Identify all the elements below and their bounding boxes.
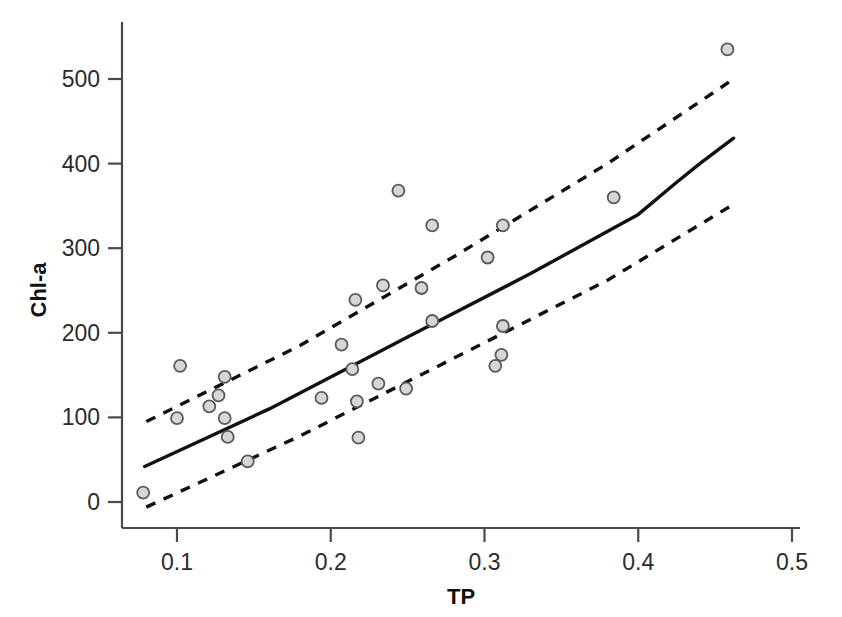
data-point	[203, 400, 215, 412]
data-point	[608, 191, 620, 203]
data-point	[482, 252, 494, 264]
x-axis-tick-labels: 0.10.20.30.40.5	[161, 549, 808, 575]
data-point	[336, 339, 348, 351]
confidence-bands-group	[146, 79, 733, 507]
y-tick-label: 0	[87, 489, 100, 515]
figure-container: 0100200300400500 0.10.20.30.40.5 TP Chl-…	[0, 0, 842, 617]
data-point	[497, 219, 509, 231]
data-point	[495, 349, 507, 361]
data-point	[316, 392, 328, 404]
x-tick-label: 0.5	[776, 549, 808, 575]
y-tick-label: 200	[62, 320, 100, 346]
data-point	[242, 455, 254, 467]
y-axis-ticks	[108, 79, 122, 502]
data-point	[400, 383, 412, 395]
data-point	[372, 378, 384, 390]
data-point	[213, 389, 225, 401]
data-point	[392, 185, 404, 197]
data-points-group	[137, 43, 733, 498]
data-point	[351, 395, 363, 407]
data-point	[721, 43, 733, 55]
x-axis-title: TP	[447, 584, 475, 609]
data-point	[352, 432, 364, 444]
regression-line	[145, 138, 734, 466]
x-tick-label: 0.4	[622, 549, 654, 575]
data-point	[346, 363, 358, 375]
data-point	[426, 315, 438, 327]
y-tick-label: 300	[62, 235, 100, 261]
y-tick-label: 500	[62, 66, 100, 92]
x-tick-label: 0.2	[315, 549, 347, 575]
x-tick-label: 0.3	[469, 549, 501, 575]
x-tick-label: 0.1	[161, 549, 193, 575]
data-point	[497, 320, 509, 332]
data-point	[377, 279, 389, 291]
confidence-band-line	[146, 79, 733, 422]
x-axis-ticks	[177, 528, 792, 542]
data-point	[219, 412, 231, 424]
confidence-band-line	[146, 204, 733, 507]
y-tick-label: 400	[62, 151, 100, 177]
data-point	[416, 282, 428, 294]
scatter-plot: 0100200300400500 0.10.20.30.40.5 TP Chl-…	[0, 0, 842, 617]
data-point	[137, 487, 149, 499]
data-point	[171, 412, 183, 424]
data-point	[222, 431, 234, 443]
y-tick-label: 100	[62, 404, 100, 430]
data-point	[349, 294, 361, 306]
data-point	[174, 360, 186, 372]
data-point	[489, 360, 501, 372]
data-point	[219, 371, 231, 383]
y-axis-title: Chl-a	[26, 262, 51, 318]
y-axis-tick-labels: 0100200300400500	[62, 66, 100, 515]
data-point	[426, 219, 438, 231]
